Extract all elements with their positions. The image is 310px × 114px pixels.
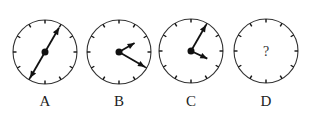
clock-c [159,19,223,83]
tick-mark [91,36,94,38]
clock-b [87,20,151,84]
tick-mark [133,24,135,27]
tick-mark [238,35,241,37]
tick-mark [17,36,20,38]
tick-mark [238,65,241,67]
tick-mark [291,65,294,67]
clock-a [13,20,77,84]
center-pivot [116,49,123,56]
tick-mark [250,23,252,26]
center-pivot [188,48,195,55]
tick-mark [216,65,219,67]
tick-mark [280,23,282,26]
question-mark: ? [263,44,269,59]
tick-mark [250,76,252,79]
tick-mark [163,35,166,37]
tick-mark [70,36,73,38]
tick-mark [280,76,282,79]
label-b: B [109,93,129,110]
tick-mark [175,23,177,26]
tick-mark [291,35,294,37]
tick-mark [17,66,20,68]
tick-mark [133,77,135,80]
tick-mark [91,66,94,68]
tick-mark [59,24,61,27]
tick-mark [205,76,207,79]
tick-mark [59,77,61,80]
tick-mark [70,66,73,68]
label-d: D [256,93,276,110]
tick-mark [103,77,105,80]
tick-mark [163,65,166,67]
tick-mark [216,35,219,37]
tick-mark [103,24,105,27]
clock-d: ? [234,19,298,83]
tick-mark [175,76,177,79]
center-pivot [42,49,49,56]
label-c: C [181,93,201,110]
tick-mark [29,24,31,27]
tick-mark [144,36,147,38]
label-a: A [35,93,55,110]
